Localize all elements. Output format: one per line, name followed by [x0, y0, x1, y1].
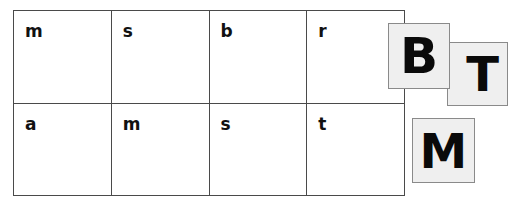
grid-cell-r0c2[interactable]: b	[209, 11, 307, 104]
letter-tile-label: M	[420, 127, 468, 175]
grid-cell-r1c1[interactable]: m	[111, 103, 209, 196]
letter-tile-m[interactable]: M	[412, 118, 475, 183]
grid-cell-r0c1[interactable]: s	[111, 11, 209, 104]
grid-cell-letter: t	[307, 104, 404, 133]
grid-cell-letter: a	[14, 104, 111, 133]
grid-cell-r0c0[interactable]: m	[14, 11, 112, 104]
table-row: a m s t	[14, 103, 405, 196]
letter-tile-label: B	[400, 31, 438, 81]
letter-tile-t[interactable]: T	[447, 42, 508, 106]
worksheet-canvas: m s b r a m s	[0, 0, 517, 203]
grid-cell-r1c0[interactable]: a	[14, 103, 112, 196]
grid-cell-letter: m	[112, 104, 209, 133]
letter-tile-label: T	[456, 50, 499, 98]
grid-cell-r1c3[interactable]: t	[307, 103, 405, 196]
table-row: m s b r	[14, 11, 405, 104]
grid-cell-r1c2[interactable]: s	[209, 103, 307, 196]
letter-tile-b[interactable]: B	[388, 23, 450, 89]
grid-cell-letter: s	[210, 104, 307, 133]
letter-grid: m s b r a m s	[13, 10, 405, 196]
grid-cell-letter: b	[210, 11, 307, 40]
grid-cell-letter: s	[112, 11, 209, 40]
grid-cell-letter: m	[14, 11, 111, 40]
